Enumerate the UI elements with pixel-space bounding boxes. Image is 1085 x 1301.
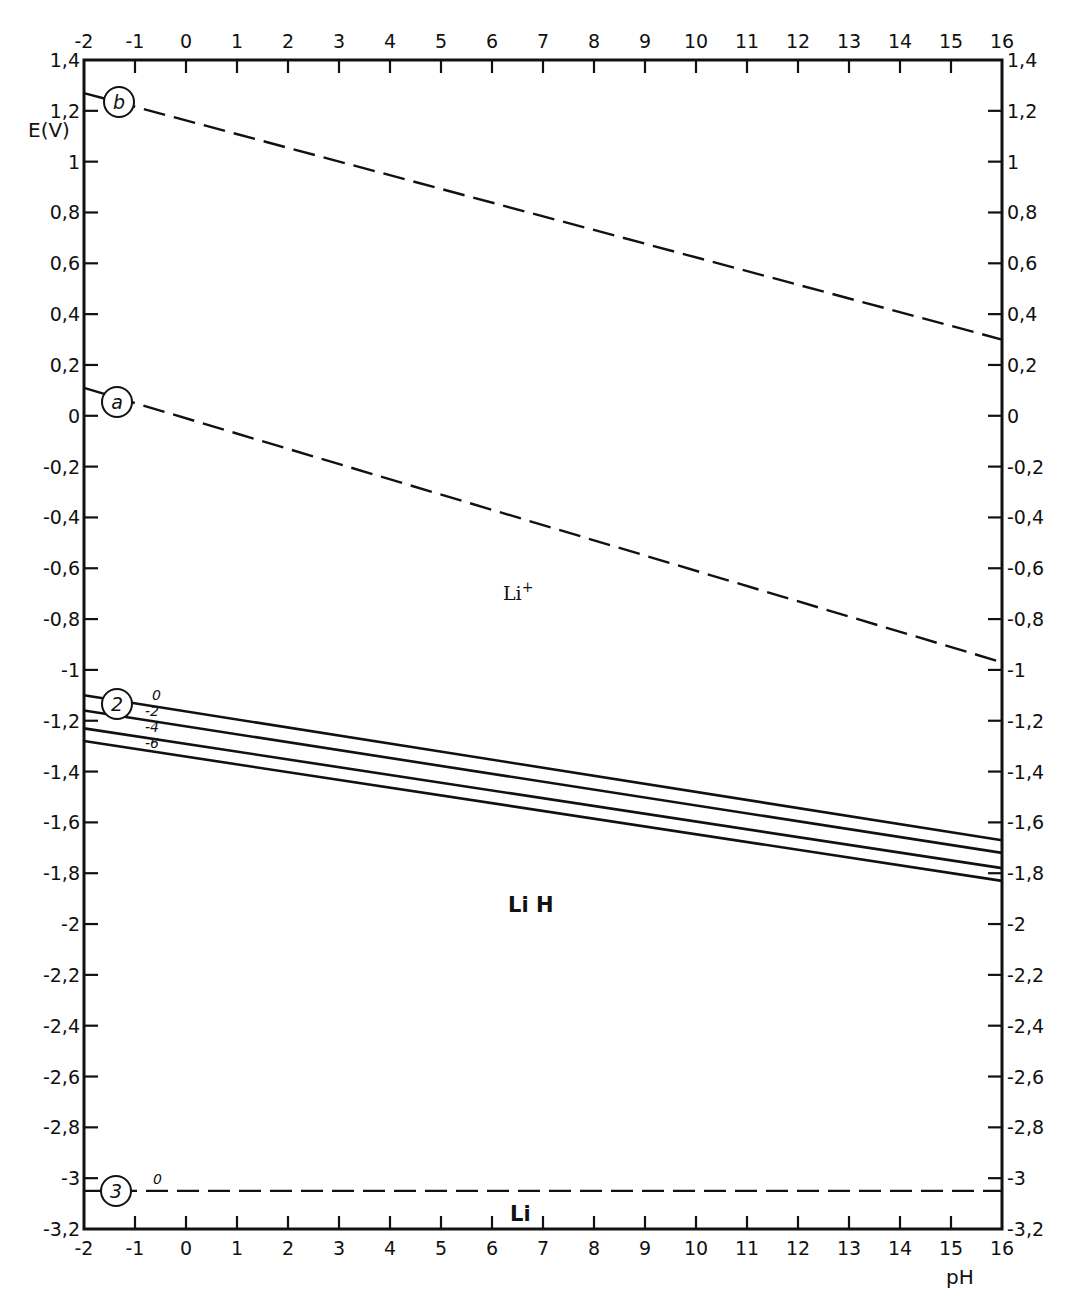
line2-label-minus2: -2 xyxy=(145,703,159,719)
x-tick-label-bottom: 0 xyxy=(180,1237,192,1259)
y-tick-label-right: -0,8 xyxy=(1007,608,1044,630)
y-tick-label-left: 0,8 xyxy=(50,201,80,223)
y-tick-label-left: -1,2 xyxy=(43,710,80,732)
y-tick-label-right: 0,6 xyxy=(1007,252,1037,274)
series-lines xyxy=(84,93,1002,1191)
x-tick-label-bottom: 15 xyxy=(939,1237,963,1259)
region-li-plus-superscript: + xyxy=(522,579,534,595)
y-tick-label-left: -2 xyxy=(61,913,80,935)
y-tick-label-right: 1,4 xyxy=(1007,49,1037,71)
x-tick-label-bottom: 5 xyxy=(435,1237,447,1259)
x-tick-label-top: 6 xyxy=(486,30,498,52)
series-line-2-4- xyxy=(84,728,1002,868)
marker-a: a xyxy=(102,387,132,417)
marker-b-label: b xyxy=(113,91,125,113)
x-tick-label-top: 12 xyxy=(786,30,810,52)
x-tick-label-top: 0 xyxy=(180,30,192,52)
y-tick-label-right: 0,2 xyxy=(1007,354,1037,376)
axis-ticks xyxy=(84,60,1002,1229)
y-tick-label-right: -2,4 xyxy=(1007,1015,1044,1037)
x-tick-label-top: 13 xyxy=(837,30,861,52)
series-line-b xyxy=(84,93,1002,340)
region-lih: Li H xyxy=(508,893,553,917)
x-tick-label-top: 10 xyxy=(684,30,708,52)
plot-frame xyxy=(84,60,1002,1229)
y-tick-label-right: -1,6 xyxy=(1007,811,1044,833)
y-tick-label-right: -2,8 xyxy=(1007,1116,1044,1138)
x-tick-label-bottom: 3 xyxy=(333,1237,345,1259)
y-tick-label-right: -1 xyxy=(1007,659,1026,681)
y-tick-label-right: 1 xyxy=(1007,151,1019,173)
region-li-plus-text: Li xyxy=(503,582,522,604)
series-line-2-6- xyxy=(84,741,1002,881)
x-tick-label-top: 1 xyxy=(231,30,243,52)
marker-3-label: 3 xyxy=(110,1180,122,1202)
y-tick-label-right: -2,6 xyxy=(1007,1066,1044,1088)
y-tick-label-right: -2 xyxy=(1007,913,1026,935)
axis-tick-labels: -2-2-1-100112233445566778899101011111212… xyxy=(43,30,1044,1259)
x-tick-label-bottom: 8 xyxy=(588,1237,600,1259)
x-tick-label-top: 11 xyxy=(735,30,759,52)
y-tick-label-left: -2,2 xyxy=(43,964,80,986)
y-tick-label-right: 1,2 xyxy=(1007,100,1037,122)
series-line-a xyxy=(84,388,1002,662)
y-tick-label-right: -1,4 xyxy=(1007,761,1044,783)
x-tick-label-bottom: 11 xyxy=(735,1237,759,1259)
x-axis-title: pH xyxy=(946,1265,974,1289)
y-tick-label-left: -2,6 xyxy=(43,1066,80,1088)
y-tick-label-left: -1,8 xyxy=(43,862,80,884)
y-tick-label-left: -1,4 xyxy=(43,761,80,783)
marker-a-label: a xyxy=(111,391,123,413)
x-tick-label-top: 9 xyxy=(639,30,651,52)
y-tick-label-left: -3 xyxy=(61,1167,80,1189)
y-tick-label-left: 0 xyxy=(68,405,80,427)
x-tick-label-top: 2 xyxy=(282,30,294,52)
x-tick-label-bottom: 7 xyxy=(537,1237,549,1259)
marker-2-label: 2 xyxy=(111,693,123,715)
marker-3: 3 xyxy=(101,1176,131,1206)
x-tick-label-bottom: 12 xyxy=(786,1237,810,1259)
x-tick-label-top: 7 xyxy=(537,30,549,52)
x-tick-label-top: 5 xyxy=(435,30,447,52)
y-tick-label-left: 0,2 xyxy=(50,354,80,376)
y-tick-label-left: -3,2 xyxy=(43,1218,80,1240)
x-tick-label-bottom: 1 xyxy=(231,1237,243,1259)
y-tick-label-left: -2,4 xyxy=(43,1015,80,1037)
y-tick-label-right: -3,2 xyxy=(1007,1218,1044,1240)
x-tick-label-bottom: 6 xyxy=(486,1237,498,1259)
y-tick-label-right: -3 xyxy=(1007,1167,1026,1189)
line3-label-0: 0 xyxy=(153,1171,162,1187)
y-tick-label-left: -0,6 xyxy=(43,557,80,579)
x-tick-label-bottom: -1 xyxy=(126,1237,145,1259)
y-tick-label-left: -1,6 xyxy=(43,811,80,833)
x-tick-label-top: 4 xyxy=(384,30,396,52)
y-tick-label-right: 0 xyxy=(1007,405,1019,427)
y-axis-title: E(V) xyxy=(28,118,70,142)
y-tick-label-right: -2,2 xyxy=(1007,964,1044,986)
x-tick-label-bottom: 16 xyxy=(990,1237,1014,1259)
y-tick-label-right: -1,8 xyxy=(1007,862,1044,884)
y-tick-label-right: -1,2 xyxy=(1007,710,1044,732)
y-tick-label-right: -0,4 xyxy=(1007,506,1044,528)
y-tick-label-left: -2,8 xyxy=(43,1116,80,1138)
y-tick-label-right: 0,8 xyxy=(1007,201,1037,223)
x-tick-label-bottom: 10 xyxy=(684,1237,708,1259)
x-tick-label-bottom: 4 xyxy=(384,1237,396,1259)
y-tick-label-left: -0,8 xyxy=(43,608,80,630)
region-li-plus: Li+ xyxy=(503,579,533,604)
y-tick-label-left: 1 xyxy=(68,151,80,173)
y-tick-label-left: 0,6 xyxy=(50,252,80,274)
pourbaix-diagram: -2-2-1-100112233445566778899101011111212… xyxy=(0,0,1085,1301)
x-tick-label-bottom: 14 xyxy=(888,1237,912,1259)
region-li: Li xyxy=(510,1202,531,1226)
y-tick-label-left: 0,4 xyxy=(50,303,80,325)
y-tick-label-left: 1,4 xyxy=(50,49,80,71)
y-tick-label-right: 0,4 xyxy=(1007,303,1037,325)
y-tick-label-left: -1 xyxy=(61,659,80,681)
y-tick-label-left: -0,2 xyxy=(43,456,80,478)
line2-label-0: 0 xyxy=(152,687,161,703)
x-tick-label-bottom: 2 xyxy=(282,1237,294,1259)
x-tick-label-bottom: -2 xyxy=(75,1237,94,1259)
series-line-2-2- xyxy=(84,711,1002,853)
x-tick-label-top: 15 xyxy=(939,30,963,52)
